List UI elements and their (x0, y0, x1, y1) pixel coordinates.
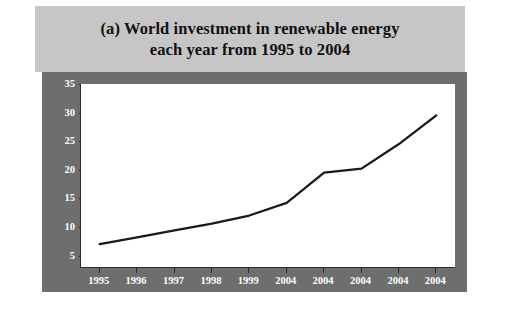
y-tick-label: 30 (53, 108, 75, 119)
y-tick-label: 25 (53, 136, 75, 147)
y-tick-label: 5 (53, 251, 75, 262)
x-tick-mark (398, 268, 399, 273)
y-tick-label: 10 (53, 222, 75, 233)
x-tick-mark (248, 268, 249, 273)
x-tick-mark (323, 268, 324, 273)
chart-title-line-2: each year from 1995 to 2004 (150, 39, 351, 60)
y-tick-label: 20 (53, 165, 75, 176)
x-tick-mark (211, 268, 212, 273)
x-tick-label: 2004 (412, 276, 458, 287)
chart-panel: Billion Dollars 5101520253035 1995199619… (42, 72, 467, 292)
plot-area (80, 84, 455, 268)
y-tick-label: 35 (53, 79, 75, 90)
x-tick-mark (99, 268, 100, 273)
chart-title-line-1: (a) World investment in renewable energy (101, 18, 400, 39)
x-tick-mark (286, 268, 287, 273)
data-series-line (100, 115, 437, 244)
figure-panel: (a) World investment in renewable energy… (0, 0, 508, 315)
x-tick-mark (136, 268, 137, 273)
y-tick-label: 15 (53, 193, 75, 204)
x-tick-mark (174, 268, 175, 273)
chart-title-band: (a) World investment in renewable energy… (35, 6, 465, 72)
x-tick-mark (361, 268, 362, 273)
line-chart-svg (81, 84, 455, 267)
x-tick-mark (435, 268, 436, 273)
